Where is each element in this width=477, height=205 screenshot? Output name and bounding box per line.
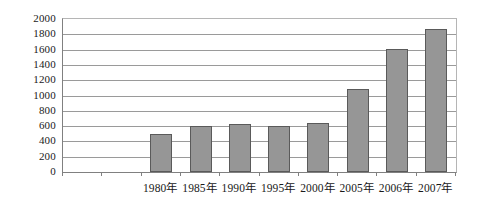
bar-slot bbox=[102, 19, 141, 172]
y-axis-tick-label: 1200 bbox=[0, 74, 56, 85]
bar[interactable] bbox=[268, 126, 290, 172]
x-axis-tick bbox=[101, 172, 102, 176]
bar[interactable] bbox=[190, 126, 212, 172]
bar-slot bbox=[260, 19, 299, 172]
x-axis-tick-label: 2007年 bbox=[418, 181, 453, 195]
y-axis-tick-label: 0 bbox=[0, 166, 56, 177]
bar-slot bbox=[299, 19, 338, 172]
bar[interactable] bbox=[307, 123, 329, 172]
bar-slot bbox=[417, 19, 456, 172]
y-axis-tick-label: 2000 bbox=[0, 13, 56, 24]
bar-slot bbox=[181, 19, 220, 172]
bar-slot bbox=[338, 19, 377, 172]
x-axis-tick-label: 1980年 bbox=[143, 181, 178, 195]
x-axis-ticks bbox=[62, 172, 455, 177]
x-axis-tick bbox=[416, 172, 417, 176]
x-axis-tick-label: 1985年 bbox=[182, 181, 217, 195]
x-axis-tick bbox=[219, 172, 220, 176]
x-axis-tick-label: 1990年 bbox=[222, 181, 257, 195]
x-axis-tick bbox=[376, 172, 377, 176]
bar-slot bbox=[377, 19, 416, 172]
x-axis-tick-label: 2005年 bbox=[340, 181, 375, 195]
x-axis-tick bbox=[62, 172, 63, 176]
bar[interactable] bbox=[150, 134, 172, 172]
x-axis-tick bbox=[180, 172, 181, 176]
bar-slot bbox=[142, 19, 181, 172]
y-axis-tick-label: 1800 bbox=[0, 28, 56, 39]
bar[interactable] bbox=[386, 49, 408, 172]
y-axis-tick-label: 200 bbox=[0, 150, 56, 161]
y-axis: 2000180016001400120010008006004002000 bbox=[0, 18, 56, 171]
y-axis-tick-label: 400 bbox=[0, 135, 56, 146]
x-axis-tick-label: 2006年 bbox=[379, 181, 414, 195]
bar-slot bbox=[220, 19, 259, 172]
x-axis-tick bbox=[141, 172, 142, 176]
plot-area bbox=[62, 18, 457, 173]
bar-slot bbox=[63, 19, 102, 172]
x-axis-tick bbox=[455, 172, 456, 176]
x-axis-tick-label: 2000年 bbox=[300, 181, 335, 195]
bar[interactable] bbox=[347, 89, 369, 172]
y-axis-tick-label: 1400 bbox=[0, 58, 56, 69]
bars-layer bbox=[63, 19, 456, 172]
bar[interactable] bbox=[425, 29, 447, 172]
x-axis-tick bbox=[259, 172, 260, 176]
bar[interactable] bbox=[229, 124, 251, 172]
bar-chart: 2000180016001400120010008006004002000 19… bbox=[0, 0, 477, 205]
x-axis-tick-label: 1995年 bbox=[261, 181, 296, 195]
y-axis-tick-label: 1000 bbox=[0, 89, 56, 100]
x-axis: 1980年1985年1990年1995年2000年2005年2006年2007年 bbox=[62, 181, 455, 201]
y-axis-tick-label: 800 bbox=[0, 104, 56, 115]
y-axis-tick-label: 1600 bbox=[0, 43, 56, 54]
x-axis-tick bbox=[337, 172, 338, 176]
x-axis-tick bbox=[298, 172, 299, 176]
y-axis-tick-label: 600 bbox=[0, 120, 56, 131]
